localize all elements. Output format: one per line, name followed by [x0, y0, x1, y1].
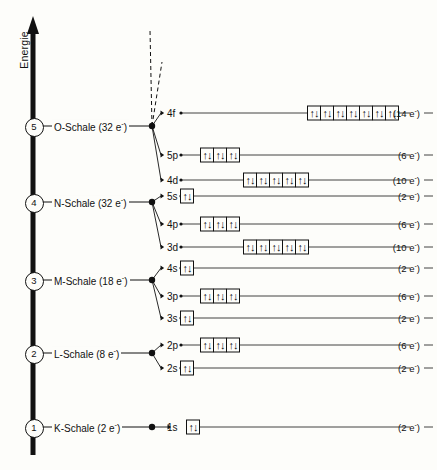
orbital-label-2s: 2s [167, 363, 178, 374]
electron-box: ↑↓ [213, 217, 227, 232]
shell-name-1: K-Schale (2 e-) [52, 420, 122, 433]
capacity-label-4d: (10 e-) [374, 174, 420, 186]
electron-box: ↑↓ [269, 240, 283, 255]
electron-pair-arrows-icon: ↑↓ [227, 149, 239, 162]
electron-box: ↑↓ [226, 289, 240, 304]
orbital-label-4p: 4p [167, 219, 178, 230]
orbital-box-row-4p: ↑↓↑↓↑↓ [200, 217, 240, 232]
electron-pair-arrows-icon: ↑↓ [270, 241, 282, 254]
orbital-box-row-3p: ↑↓↑↓↑↓ [200, 289, 240, 304]
capacity-label-2s: (2 e-) [374, 362, 420, 374]
electron-box: ↑↓ [256, 240, 270, 255]
electron-pair-arrows-icon: ↑↓ [201, 339, 213, 352]
electron-box: ↑↓ [256, 173, 270, 188]
orbital-box-row-5s: ↑↓ [180, 189, 194, 204]
orbital-label-4s: 4s [167, 263, 178, 274]
orbital-label-4d: 4d [167, 175, 178, 186]
orbital-box-row-4d: ↑↓↑↓↑↓↑↓↑↓ [243, 173, 309, 188]
capacity-label-2p: (6 e-) [374, 339, 420, 351]
electron-box: ↑↓ [295, 240, 309, 255]
capacity-label-5s: (2 e-) [374, 190, 420, 202]
electron-pair-arrows-icon: ↑↓ [257, 174, 269, 187]
electron-pair-arrows-icon: ↑↓ [283, 241, 295, 254]
electron-pair-arrows-icon: ↑↓ [270, 174, 282, 187]
diagram-vector-layer [0, 0, 437, 470]
electron-box: ↑↓ [180, 361, 194, 376]
electron-pair-arrows-icon: ↑↓ [201, 149, 213, 162]
electron-box: ↑↓ [359, 106, 373, 121]
electron-pair-arrows-icon: ↑↓ [283, 174, 295, 187]
shell-number-badge-3: 3 [25, 272, 44, 291]
electron-pair-arrows-icon: ↑↓ [227, 218, 239, 231]
electron-box: ↑↓ [243, 173, 257, 188]
electron-pair-arrows-icon: ↑↓ [214, 149, 226, 162]
electron-box: ↑↓ [226, 148, 240, 163]
electron-box: ↑↓ [295, 173, 309, 188]
orbital-box-row-5p: ↑↓↑↓↑↓ [200, 148, 240, 163]
electron-pair-arrows-icon: ↑↓ [257, 241, 269, 254]
orbital-box-row-3s: ↑↓ [180, 311, 194, 326]
electron-box: ↑↓ [226, 338, 240, 353]
orbital-box-row-4s: ↑↓ [180, 261, 194, 276]
orbital-label-5s: 5s [167, 191, 178, 202]
orbital-label-3s: 3s [167, 313, 178, 324]
capacity-label-4p: (6 e-) [374, 218, 420, 230]
electron-box: ↑↓ [213, 338, 227, 353]
capacity-label-4s: (2 e-) [374, 262, 420, 274]
electron-box: ↑↓ [213, 148, 227, 163]
capacity-label-1s: (2 e-) [374, 421, 420, 433]
electron-pair-arrows-icon: ↑↓ [214, 339, 226, 352]
electron-pair-arrows-icon: ↑↓ [181, 312, 193, 325]
shell-name-4: N-Schale (32 e-) [52, 195, 129, 208]
shell-number-badge-2: 2 [25, 345, 44, 364]
orbital-label-4f: 4f [167, 108, 175, 119]
shell-number-badge-1: 1 [25, 419, 44, 438]
electron-box: ↑↓ [333, 106, 347, 121]
electron-pair-arrows-icon: ↑↓ [244, 174, 256, 187]
electron-box: ↑↓ [180, 261, 194, 276]
capacity-label-3p: (6 e-) [374, 290, 420, 302]
electron-box: ↑↓ [282, 173, 296, 188]
electron-box: ↑↓ [200, 338, 214, 353]
electron-pair-arrows-icon: ↑↓ [296, 241, 308, 254]
electron-pair-arrows-icon: ↑↓ [244, 241, 256, 254]
electron-box: ↑↓ [200, 148, 214, 163]
electron-pair-arrows-icon: ↑↓ [296, 174, 308, 187]
electron-pair-arrows-icon: ↑↓ [308, 107, 320, 120]
electron-box: ↑↓ [346, 106, 360, 121]
orbital-box-row-2s: ↑↓ [180, 361, 194, 376]
energy-axis-label: Energie [18, 20, 30, 80]
shell-number-badge-5: 5 [25, 118, 44, 137]
electron-box: ↑↓ [186, 420, 200, 435]
electron-pair-arrows-icon: ↑↓ [214, 218, 226, 231]
shell-name-5: O-Schale (32 e-) [52, 119, 129, 132]
orbital-label-5p: 5p [167, 150, 178, 161]
electron-pair-arrows-icon: ↑↓ [181, 362, 193, 375]
electron-pair-arrows-icon: ↑↓ [227, 339, 239, 352]
electron-box: ↑↓ [243, 240, 257, 255]
orbital-label-1s: 1s [167, 422, 178, 433]
shell-number-badge-4: 4 [25, 194, 44, 213]
orbital-label-3d: 3d [167, 242, 178, 253]
capacity-label-3s: (2 e-) [374, 312, 420, 324]
electron-pair-arrows-icon: ↑↓ [321, 107, 333, 120]
shell-name-3: M-Schale (18 e-) [52, 273, 130, 286]
electron-box: ↑↓ [320, 106, 334, 121]
electron-box: ↑↓ [282, 240, 296, 255]
electron-shell-energy-diagram: Energie 54321 O-Schale (32 e-)N-Schale (… [0, 0, 437, 470]
orbital-label-3p: 3p [167, 291, 178, 302]
electron-pair-arrows-icon: ↑↓ [201, 218, 213, 231]
orbital-label-2p: 2p [167, 340, 178, 351]
electron-pair-arrows-icon: ↑↓ [227, 290, 239, 303]
orbital-box-row-3d: ↑↓↑↓↑↓↑↓↑↓ [243, 240, 309, 255]
electron-box: ↑↓ [180, 189, 194, 204]
electron-pair-arrows-icon: ↑↓ [214, 290, 226, 303]
electron-pair-arrows-icon: ↑↓ [347, 107, 359, 120]
electron-box: ↑↓ [200, 289, 214, 304]
shell-name-2: L-Schale (8 e-) [52, 346, 121, 359]
orbital-box-row-2p: ↑↓↑↓↑↓ [200, 338, 240, 353]
electron-box: ↑↓ [307, 106, 321, 121]
capacity-label-3d: (10 e-) [374, 241, 420, 253]
orbital-box-row-1s: ↑↓ [186, 420, 200, 435]
capacity-label-5p: (6 e-) [374, 149, 420, 161]
